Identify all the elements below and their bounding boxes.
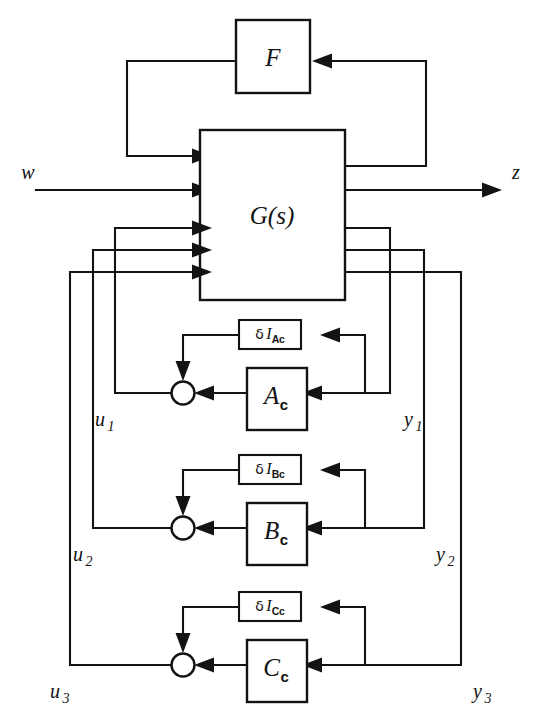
wire-delta-ac-to-sum1 <box>176 335 240 381</box>
wire-delta-bc-to-sum2 <box>176 470 240 516</box>
wire-plant-to-z <box>345 183 502 198</box>
controller-block-cc-label: Cc <box>263 655 289 684</box>
uncertainty-ac-subscript: Ac <box>272 333 285 345</box>
wire-delta-cc-to-sum3 <box>176 607 240 653</box>
controller-cc-letter: C <box>263 654 280 681</box>
controller-ac-letter: A <box>264 382 279 409</box>
signal-y2-label: y2 <box>436 544 454 569</box>
signal-u2-label: u2 <box>73 544 93 569</box>
controller-bc-subscript: c <box>280 530 288 547</box>
signal-u3-letter: u <box>50 680 60 702</box>
wire-cc-to-sum3 <box>194 658 247 673</box>
diagram-canvas <box>0 0 540 728</box>
delta-symbol-bc: δ <box>255 461 264 477</box>
controller-bc-letter: B <box>264 517 279 544</box>
signal-y1-label: y1 <box>404 409 422 434</box>
wire-bc-to-sum2 <box>194 521 247 536</box>
uncertainty-block-cc-label: δICc <box>255 598 284 616</box>
signal-u3-label: u3 <box>50 681 70 706</box>
wire-ac-to-sum1 <box>194 386 247 401</box>
signal-u1-letter: u <box>95 408 105 430</box>
delta-symbol-ac: δ <box>255 326 264 342</box>
wire-w-to-plant <box>36 183 212 198</box>
controller-cc-subscript: c <box>280 667 288 684</box>
signal-w-label: w <box>21 162 34 182</box>
controller-ac-subscript: c <box>280 395 288 412</box>
signal-y3-label: y3 <box>473 681 491 706</box>
controller-block-ac-label: Ac <box>264 383 288 412</box>
signal-y2-subscript: 2 <box>447 554 454 569</box>
summing-junction-3-circle <box>172 654 195 677</box>
delta-symbol-cc: δ <box>255 598 264 614</box>
signal-u2-letter: u <box>73 543 83 565</box>
summing-junction-1-circle <box>172 382 195 405</box>
summing-junction-2-circle <box>172 517 195 540</box>
wire-u3-to-plant <box>70 265 212 666</box>
block-diagram-figure: F G(s) w z Ac Bc Cc δIAc δIBc δICc u1 u2… <box>0 0 540 728</box>
signal-u1-label: u1 <box>95 409 115 434</box>
uncertainty-block-ac-label: δIAc <box>255 326 284 344</box>
signal-u1-subscript: 1 <box>108 419 115 434</box>
wire-y3-from-plant <box>302 272 461 673</box>
uncertainty-cc-subscript: Cc <box>272 605 285 617</box>
signal-y1-subscript: 1 <box>415 419 422 434</box>
signal-y1-letter: y <box>404 408 413 430</box>
plant-block-label: G(s) <box>250 203 294 228</box>
uncertainty-block-bc-label: δIBc <box>255 461 284 479</box>
signal-u2-subscript: 2 <box>86 554 93 569</box>
feedback-block-label: F <box>265 45 280 70</box>
signal-y3-letter: y <box>473 680 482 702</box>
signal-z-label: z <box>512 162 520 182</box>
signal-u3-subscript: 3 <box>63 691 70 706</box>
uncertainty-bc-subscript: Bc <box>272 468 285 480</box>
wire-u2-to-plant <box>93 243 212 529</box>
controller-block-bc-label: Bc <box>264 518 288 547</box>
signal-y2-letter: y <box>436 543 445 565</box>
signal-y3-subscript: 3 <box>484 691 491 706</box>
